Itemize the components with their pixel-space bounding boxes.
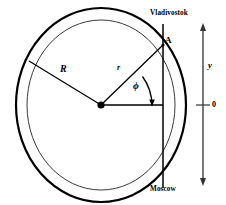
radius-r-line bbox=[101, 45, 163, 105]
label-point-a: A bbox=[165, 36, 172, 45]
label-vladivostok: Vladivostok bbox=[150, 10, 188, 17]
label-axis-zero: 0 bbox=[212, 101, 216, 109]
label-moscow: Moscow bbox=[150, 186, 176, 193]
label-radius-r: r bbox=[117, 64, 120, 72]
y-axis-up-arrowhead bbox=[200, 23, 206, 31]
figure-canvas bbox=[0, 0, 226, 205]
label-angle-phi: ϕ bbox=[133, 81, 139, 91]
polar-geometry-figure: Vladivostok Moscow A R r ϕ y 0 bbox=[0, 0, 226, 205]
y-axis-down-arrowhead bbox=[200, 178, 206, 186]
label-axis-y: y bbox=[208, 61, 212, 70]
label-radius-R: R bbox=[60, 64, 67, 74]
center-point-dot bbox=[97, 101, 104, 108]
